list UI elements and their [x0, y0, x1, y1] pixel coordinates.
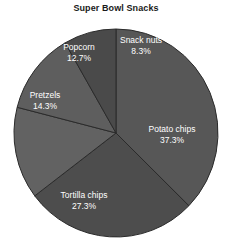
pie-chart-figure: Super Bowl Snacks Potato chips37.3%Torti…	[0, 0, 232, 243]
slice-percent-pretzels: 14.3%	[33, 101, 58, 111]
slice-label-popcorn: Popcorn	[63, 42, 95, 52]
slice-percent-potato-chips: 37.3%	[160, 135, 185, 145]
pie-chart-canvas: Potato chips37.3%Tortilla chips27.3%Pret…	[0, 0, 232, 243]
slice-percent-tortilla-chips: 27.3%	[72, 201, 97, 211]
slice-label-potato-chips: Potato chips	[149, 124, 196, 134]
slice-label-pretzels: Pretzels	[30, 90, 61, 100]
slice-percent-snack-nuts: 8.3%	[131, 46, 151, 56]
slice-percent-popcorn: 12.7%	[67, 53, 92, 63]
slice-label-snack-nuts: Snack nuts	[120, 35, 162, 45]
slice-label-tortilla-chips: Tortilla chips	[61, 190, 108, 200]
